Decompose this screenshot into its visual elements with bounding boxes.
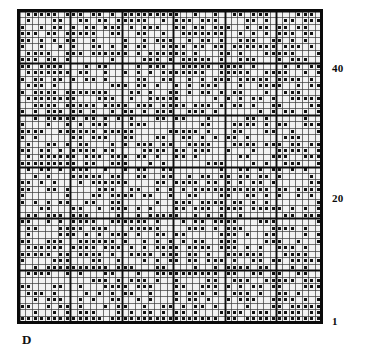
- y-axis-tick-20: 20: [332, 193, 343, 204]
- figure-panel: 40 20 1 D: [0, 0, 365, 351]
- y-axis-tick-40: 40: [332, 63, 343, 74]
- panel-label: D: [22, 333, 31, 346]
- matrix-plot: [17, 9, 323, 324]
- matrix-canvas: [17, 9, 323, 324]
- y-axis-tick-1: 1: [332, 316, 338, 327]
